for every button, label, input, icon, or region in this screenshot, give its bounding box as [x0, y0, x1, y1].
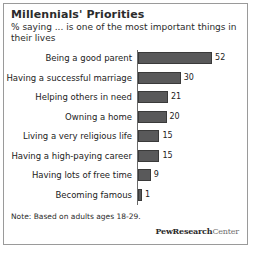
chart-note: Note: Based on adults ages 18-29.	[11, 212, 141, 221]
bar-category-label: Being a good parent	[4, 52, 132, 64]
bar	[138, 52, 212, 64]
bar-category-label: Becoming famous	[4, 189, 132, 201]
bar-row: Being a good parent52	[4, 52, 249, 64]
bar	[138, 111, 167, 123]
bar-row: Having a high-paying career15	[4, 150, 249, 162]
bar-value-label: 21	[171, 91, 181, 103]
bar-category-label: Having a successful marriage	[4, 72, 132, 84]
bar-value-label: 15	[162, 150, 172, 162]
bar-category-label: Having lots of free time	[4, 169, 132, 181]
chart-title: Millennials' Priorities	[11, 8, 144, 21]
plot-area: Being a good parent52Having a successful…	[4, 48, 249, 208]
bar-value-label: 52	[215, 52, 225, 64]
bar-value-label: 30	[184, 72, 194, 84]
bar-value-label: 1	[145, 189, 150, 201]
logo-bold-text: PewResearch	[155, 226, 212, 236]
bar-row: Having a successful marriage30	[4, 72, 249, 84]
bar	[138, 150, 159, 162]
bar-value-label: 9	[154, 169, 159, 181]
bar	[138, 91, 168, 103]
bar	[138, 130, 159, 142]
bar-row: Having lots of free time9	[4, 169, 249, 181]
bar-row: Becoming famous1	[4, 189, 249, 201]
bar-row: Helping others in need21	[4, 91, 249, 103]
chart-figure: Millennials' Priorities % saying ... is …	[3, 3, 248, 245]
chart-subtitle: % saying ... is one of the most importan…	[11, 22, 243, 44]
pew-research-center-logo: PewResearchCenter	[155, 226, 239, 236]
bar-value-label: 20	[170, 111, 180, 123]
bar	[138, 169, 151, 181]
bar-category-label: Living a very religious life	[4, 130, 132, 142]
bar-category-label: Owning a home	[4, 111, 132, 123]
bar-row: Owning a home20	[4, 111, 249, 123]
bar-row: Living a very religious life15	[4, 130, 249, 142]
bar-category-label: Helping others in need	[4, 91, 132, 103]
bar-value-label: 15	[162, 130, 172, 142]
logo-light-text: Center	[212, 227, 239, 236]
bar	[138, 189, 142, 201]
chart-inner: Millennials' Priorities % saying ... is …	[4, 4, 247, 244]
bar-category-label: Having a high-paying career	[4, 150, 132, 162]
bar	[138, 72, 181, 84]
